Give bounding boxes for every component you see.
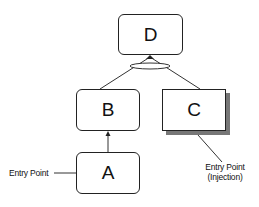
edge-b-to-d: [100, 57, 150, 89]
node-a-label: A: [102, 162, 115, 184]
node-c: C: [162, 89, 226, 131]
arrowhead-d-icon: [146, 55, 154, 59]
edge-c-to-d: [150, 57, 200, 89]
entry-point-c-line: [198, 135, 222, 162]
node-b-label: B: [102, 99, 115, 121]
join-ellipse-icon: [130, 63, 170, 69]
node-d: D: [118, 14, 183, 55]
entry-point-injection-label: Entry Point (Injection): [201, 162, 249, 182]
entry-point-injection-line2: (Injection): [201, 172, 249, 182]
entry-point-injection-line1: Entry Point: [201, 162, 249, 172]
arrowhead-b-icon: [106, 131, 111, 136]
node-b: B: [76, 89, 140, 131]
node-d-label: D: [144, 24, 158, 46]
entry-point-label: Entry Point: [9, 168, 48, 178]
node-a: A: [76, 152, 140, 194]
node-c-label: C: [187, 99, 201, 121]
